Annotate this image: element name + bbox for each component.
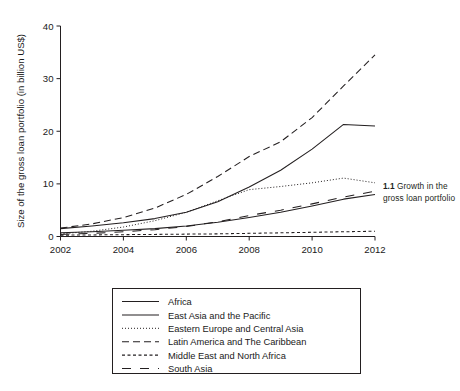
series-line bbox=[61, 191, 376, 234]
chart-legend: AfricaEast Asia and the PacificEastern E… bbox=[113, 289, 361, 375]
x-tick-label: 2008 bbox=[239, 244, 260, 255]
legend-item-label: Africa bbox=[168, 297, 193, 307]
x-tick-label: 2010 bbox=[301, 244, 322, 255]
chart-axes bbox=[61, 26, 376, 237]
y-tick-label: 0 bbox=[48, 231, 53, 242]
x-tick-label: 2004 bbox=[113, 244, 135, 255]
series-line bbox=[61, 178, 376, 234]
x-axis-ticks: 200220042006200820102012 bbox=[50, 237, 386, 255]
chart-series-layer bbox=[61, 55, 376, 235]
y-tick-label: 40 bbox=[43, 21, 54, 32]
y-tick-label: 10 bbox=[43, 178, 54, 189]
legend-item-label: Eastern Europe and Central Asia bbox=[168, 324, 304, 334]
figure-caption-number: 1.1 bbox=[383, 181, 395, 191]
x-tick-label: 2006 bbox=[176, 244, 197, 255]
figure-container: 010203040 200220042006200820102012 Size … bbox=[0, 0, 460, 391]
y-axis-title: Size of the gross loan portfolio (in bil… bbox=[15, 34, 26, 228]
figure-caption: 1.1 Growth in the gross loan portfolio bbox=[383, 180, 457, 204]
y-axis-ticks: 010203040 bbox=[43, 21, 61, 243]
x-tick-label: 2002 bbox=[50, 244, 71, 255]
legend-item-label: South Asia bbox=[168, 364, 213, 374]
y-tick-label: 30 bbox=[43, 73, 54, 84]
legend-item-label: Middle East and North Africa bbox=[168, 351, 287, 361]
y-tick-label: 20 bbox=[43, 126, 54, 137]
x-tick-label: 2012 bbox=[364, 244, 385, 255]
series-line bbox=[61, 231, 376, 235]
legend-item-label: Latin America and The Caribbean bbox=[168, 337, 306, 347]
legend-item-label: East Asia and the Pacific bbox=[168, 311, 271, 321]
